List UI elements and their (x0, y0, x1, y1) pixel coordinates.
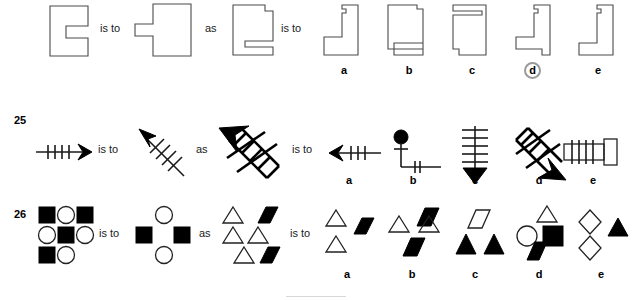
arrow-option-b[interactable] (385, 129, 447, 179)
option-label-e: e (588, 64, 608, 76)
figure-option-b[interactable] (385, 206, 447, 262)
question-number-26: 26 (14, 208, 26, 220)
option-label-d[interactable]: d (524, 62, 541, 79)
arrow-option-label-b: b (403, 174, 423, 186)
prompt-shape-a (48, 4, 94, 58)
arrow-prompt-b (136, 126, 194, 182)
figure-option-d[interactable] (513, 202, 571, 264)
figure-option-label-b: b (402, 268, 422, 280)
arrow-prompt-a (34, 140, 96, 164)
option-label-b: b (399, 64, 419, 76)
arrow-option-a[interactable] (325, 142, 385, 164)
arrow-option-label-d: d (529, 174, 549, 186)
row-arrows: 25 is to as (0, 112, 635, 192)
connector-is-to-6: is to (290, 227, 310, 239)
connector-is-to-1: is to (100, 22, 120, 34)
option-shape-c[interactable] (450, 3, 494, 59)
figure-option-a[interactable] (322, 208, 378, 260)
arrow-option-label-e: e (583, 174, 603, 186)
question-number-25: 25 (14, 114, 26, 126)
prompt-shape-c (231, 3, 279, 59)
row-shapes-polygon: is to as is to a b (0, 0, 635, 90)
arrow-prompt-c (215, 124, 293, 186)
bottom-divider (286, 296, 346, 297)
row-figures: 26 is to as (0, 196, 635, 300)
connector-as-1: as (205, 22, 217, 34)
connector-is-to-2: is to (281, 22, 301, 34)
option-label-a: a (334, 64, 354, 76)
figure-option-c[interactable] (452, 208, 510, 260)
figure-option-label-d: d (529, 268, 549, 280)
connector-is-to-4: is to (292, 143, 312, 155)
arrow-option-label-c: c (465, 174, 485, 186)
connector-as-2: as (196, 143, 208, 155)
option-shape-a[interactable] (320, 3, 365, 59)
connector-is-to-3: is to (98, 143, 118, 155)
figure-option-e[interactable] (576, 208, 632, 260)
arrow-option-label-a: a (339, 174, 359, 186)
figure-prompt-c (222, 204, 284, 266)
figure-option-label-a: a (337, 268, 357, 280)
connector-as-3: as (199, 227, 211, 239)
figure-option-label-e: e (591, 268, 611, 280)
figure-option-label-c: c (465, 268, 485, 280)
connector-is-to-5: is to (99, 227, 119, 239)
arrow-option-e[interactable] (560, 136, 622, 170)
option-label-c: c (462, 64, 482, 76)
option-shape-e[interactable] (575, 3, 620, 59)
prompt-shape-b (133, 2, 195, 60)
figure-prompt-a (36, 204, 98, 266)
option-shape-d[interactable] (512, 3, 557, 59)
worksheet-page: is to as is to a b (0, 0, 635, 300)
option-shape-b[interactable] (385, 3, 431, 59)
figure-prompt-b (133, 204, 195, 266)
